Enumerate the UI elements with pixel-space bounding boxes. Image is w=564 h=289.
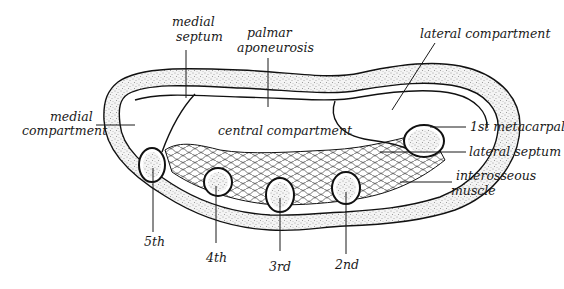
label-interosseous-2: muscle (451, 183, 496, 198)
fourth-metacarpal-bone (204, 168, 232, 196)
label-interosseous-1: interosseous (456, 168, 536, 183)
label-medial-compartment-1: medial (50, 109, 93, 124)
label-5th: 5th (144, 234, 165, 249)
label-central-compartment: central compartment (218, 123, 353, 138)
label-lateral-compartment: lateral compartment (420, 26, 551, 41)
label-3rd: 3rd (269, 259, 291, 274)
label-4th: 4th (205, 250, 227, 265)
fifth-metacarpal-bone (139, 148, 165, 182)
palm-cross-section-diagram: medial septum palmar aponeurosis lateral… (0, 0, 564, 289)
label-2nd: 2nd (334, 257, 359, 272)
label-medial-septum-2: septum (176, 29, 223, 44)
label-first-metacarpal: 1st metacarpal (470, 119, 564, 134)
label-lateral-septum: lateral septum (469, 144, 561, 159)
label-medial-septum-1: medial (172, 14, 215, 29)
label-palmar-aponeurosis-2: aponeurosis (237, 40, 314, 55)
label-medial-compartment-2: compartment (22, 123, 108, 138)
label-palmar-aponeurosis-1: palmar (247, 25, 293, 40)
